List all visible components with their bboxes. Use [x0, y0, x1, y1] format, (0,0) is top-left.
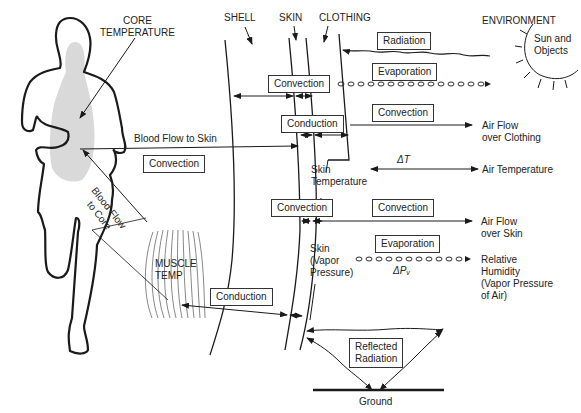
- evaporation-box-skin: Evaporation: [375, 235, 440, 253]
- clothing-label: CLOTHING: [319, 12, 371, 24]
- ground-label: Ground: [359, 396, 392, 408]
- convection-box-clothing: Convection: [372, 104, 434, 122]
- convection-box-top: Convection: [268, 75, 330, 93]
- convection-box-skin-right: Convection: [372, 199, 434, 217]
- shell-label: SHELL: [224, 12, 256, 24]
- convection-box-skin-left: Convection: [271, 199, 333, 217]
- skin-label: SKIN: [279, 12, 302, 24]
- relative-humidity-label: Relative Humidity (Vapor Pressure of Air…: [481, 254, 553, 302]
- environment-label: ENVIRONMENT: [482, 15, 556, 27]
- evaporation-box-top: Evaporation: [372, 63, 437, 81]
- delta-t-label: ΔT: [397, 154, 410, 166]
- evaporation-dots-skin: [356, 257, 462, 261]
- conduction-box-top: Conduction: [281, 115, 344, 133]
- sun-objects-label: Sun and Objects: [534, 33, 571, 57]
- air-flow-clothing-label: Air Flow over Clothing: [482, 120, 541, 144]
- radiation-box: Radiation: [377, 32, 431, 50]
- delta-pv-label: ΔPᵥ: [393, 265, 410, 277]
- core-temperature-label: CORE TEMPERATURE: [100, 15, 175, 39]
- air-flow-skin-label: Air Flow over Skin: [481, 216, 523, 240]
- clothing-line: [328, 34, 349, 160]
- blood-flow-to-skin-label: Blood Flow to Skin: [134, 133, 217, 145]
- skin-vapor-pressure-label: Skin (Vapor Pressure): [310, 243, 353, 279]
- air-temperature-label: Air Temperature: [482, 164, 553, 176]
- skin-temperature-label: Skin Temperature: [311, 164, 367, 188]
- convection-box-blood: Convection: [143, 155, 205, 173]
- reflected-radiation-box: Reflected Radiation: [349, 338, 403, 368]
- conduction-box-bottom: Conduction: [210, 288, 273, 306]
- muscle-temp-label: MUSCLE TEMP: [155, 258, 197, 282]
- evaporation-dots-top: [338, 82, 484, 86]
